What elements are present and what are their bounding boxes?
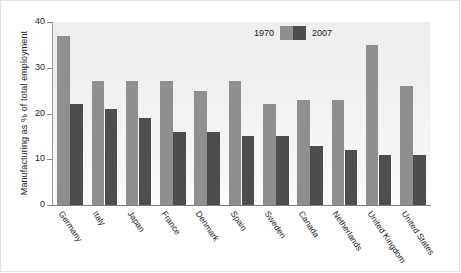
bar-netherlands-1970 bbox=[332, 100, 345, 205]
x-axis-line bbox=[52, 205, 431, 206]
bar-chart-figure: Manufacturing as % of total employment 0… bbox=[0, 0, 461, 273]
plot-area bbox=[53, 22, 430, 205]
bar-united-states-1970 bbox=[400, 86, 413, 205]
x-axis-label-netherlands: Netherlands bbox=[331, 209, 365, 253]
y-tick-label-30: 30 bbox=[1, 62, 45, 72]
y-tick-label-0: 0 bbox=[1, 199, 45, 209]
x-axis-label-italy: Italy bbox=[91, 209, 108, 228]
bar-japan-1970 bbox=[126, 81, 139, 205]
x-axis-label-canada: Canada bbox=[297, 209, 322, 239]
bar-sweden-1970 bbox=[263, 104, 276, 205]
y-tick-mark-20 bbox=[47, 114, 53, 115]
x-axis-label-denmark: Denmark bbox=[194, 209, 222, 243]
bar-italy-1970 bbox=[92, 81, 105, 205]
y-tick-label-40: 40 bbox=[1, 16, 45, 26]
chart-legend: 1970 2007 bbox=[254, 26, 332, 40]
y-tick-label-10: 10 bbox=[1, 153, 45, 163]
y-tick-mark-40 bbox=[47, 22, 53, 23]
x-axis-label-united-states: United States bbox=[400, 209, 437, 257]
x-axis-label-germany: Germany bbox=[57, 209, 85, 244]
bar-spain-2007 bbox=[242, 136, 255, 205]
bar-italy-2007 bbox=[105, 109, 118, 205]
x-axis-label-spain: Spain bbox=[228, 209, 248, 233]
bar-germany-1970 bbox=[57, 36, 70, 205]
bar-canada-2007 bbox=[310, 146, 323, 205]
bar-united-kingdom-1970 bbox=[366, 45, 379, 205]
x-axis-label-france: France bbox=[160, 209, 183, 237]
legend-swatch-1970 bbox=[280, 26, 293, 40]
bar-sweden-2007 bbox=[276, 136, 289, 205]
y-tick-label-20: 20 bbox=[1, 108, 45, 118]
bar-netherlands-2007 bbox=[345, 150, 358, 205]
bar-spain-1970 bbox=[229, 81, 242, 205]
bar-france-2007 bbox=[173, 132, 186, 205]
y-tick-mark-10 bbox=[47, 159, 53, 160]
bar-canada-1970 bbox=[297, 100, 310, 205]
y-tick-mark-30 bbox=[47, 68, 53, 69]
legend-label-2007: 2007 bbox=[312, 28, 332, 38]
x-axis-label-sweden: Sweden bbox=[262, 209, 287, 240]
bar-united-states-2007 bbox=[413, 155, 426, 205]
bar-united-kingdom-2007 bbox=[379, 155, 392, 205]
x-axis-label-japan: Japan bbox=[125, 209, 146, 234]
y-tick-mark-0 bbox=[47, 205, 53, 206]
bar-germany-2007 bbox=[70, 104, 83, 205]
legend-swatch-2007 bbox=[293, 26, 306, 40]
bar-japan-2007 bbox=[139, 118, 152, 205]
bar-denmark-1970 bbox=[194, 91, 207, 205]
legend-label-1970: 1970 bbox=[254, 28, 274, 38]
bar-denmark-2007 bbox=[207, 132, 220, 205]
bar-france-1970 bbox=[160, 81, 173, 205]
